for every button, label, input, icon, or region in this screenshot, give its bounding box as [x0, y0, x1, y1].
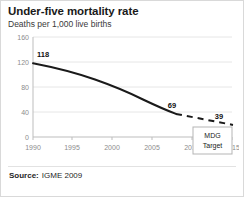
y-tick-label: 80 [21, 84, 29, 91]
source-value: IGME 2009 [42, 171, 82, 180]
series-observed [33, 63, 176, 114]
mdg-target-line2: Target [203, 142, 223, 150]
mdg-target-annotation: MDG Target [193, 127, 232, 154]
data-label-target: 39 [215, 112, 223, 121]
y-tick-label: 0 [25, 134, 29, 141]
chart-subtitle: Deaths per 1,000 live births [8, 19, 237, 30]
data-label-start: 118 [37, 50, 49, 59]
page-title: Under-five mortality rate [8, 5, 237, 18]
x-tick-label: 2005 [144, 144, 160, 151]
y-axis-tick-labels: 160 120 80 40 0 [17, 34, 29, 141]
line-chart-svg: 160 120 80 40 0 1990 1995 2000 2005 2010… [7, 31, 239, 164]
source-note: Source:IGME 2009 [9, 171, 82, 180]
x-tick-label: 2000 [104, 144, 120, 151]
mdg-target-line1: MDG [204, 132, 220, 139]
chart-header: Under-five mortality rate Deaths per 1,0… [8, 5, 237, 30]
y-tick-label: 120 [17, 59, 29, 66]
chart-card: Under-five mortality rate Deaths per 1,0… [0, 0, 244, 197]
chart-plot-area: 160 120 80 40 0 1990 1995 2000 2005 2010… [7, 31, 239, 164]
y-tick-label: 40 [21, 109, 29, 116]
data-label-current: 69 [168, 101, 176, 110]
footer-divider [8, 166, 236, 167]
y-tick-label: 160 [17, 34, 29, 41]
gridlines [33, 37, 232, 112]
source-label: Source: [9, 171, 39, 180]
series-projection-path [176, 114, 233, 125]
x-tick-label: 1995 [64, 144, 80, 151]
x-tick-label: 1990 [25, 144, 41, 151]
